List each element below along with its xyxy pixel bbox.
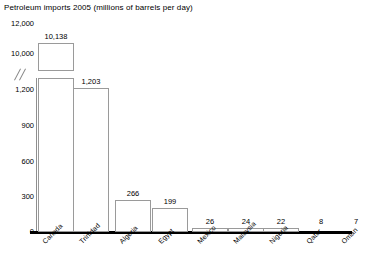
bar-canada xyxy=(38,78,74,232)
bar-value-egypt: 199 xyxy=(144,198,196,206)
bar-value-canada: 10,138 xyxy=(30,33,82,41)
bar-trinidad xyxy=(73,88,109,232)
bar-chart: Petroleum imports 2005 (millions of barr… xyxy=(0,0,375,273)
bar-value-algeria: 266 xyxy=(107,190,159,198)
bar-value-trinidad: 1,203 xyxy=(65,78,117,86)
bar-canada-upper xyxy=(38,43,74,71)
bar-value-oman: 7 xyxy=(330,218,375,226)
